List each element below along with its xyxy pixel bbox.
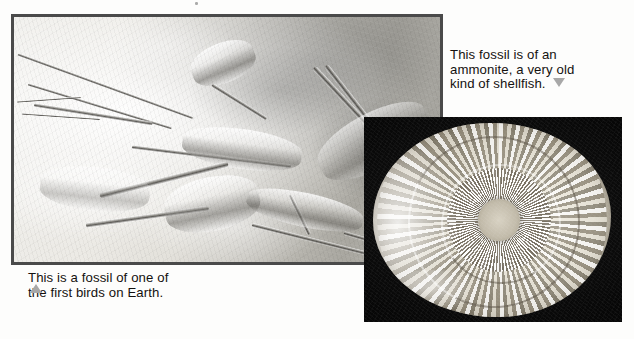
scan-artifact-speck (195, 2, 198, 5)
photo-film-grain (364, 117, 622, 322)
caption-ammonite-line1: This fossil is of an (450, 48, 574, 63)
ammonite-fossil-photo (364, 117, 622, 322)
caption-ammonite-line2: ammonite, a very old (450, 63, 574, 78)
caption-bird-line1-row: This is a fossil of one of (10, 271, 168, 286)
caption-bird-fossil: This is a fossil of one of the first bir… (10, 271, 168, 300)
caption-bird-line1: This is a fossil of one of (28, 270, 168, 285)
triangle-down-icon (553, 78, 565, 87)
caption-ammonite-fossil: This fossil is of an ammonite, a very ol… (450, 48, 574, 92)
caption-ammonite-line3: kind of shellfish. (450, 76, 546, 91)
caption-ammonite-line3-row: kind of shellfish. (450, 77, 574, 92)
